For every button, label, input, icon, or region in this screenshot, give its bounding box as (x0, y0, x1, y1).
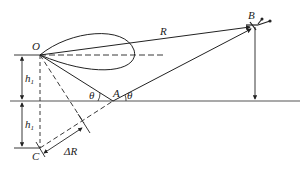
range-label-r: R (159, 25, 167, 37)
multipath-diagram: O A B C R θ θ h1 h1 ΔR (0, 0, 305, 170)
perpendicular-dashed (40, 55, 84, 123)
direct-ray (40, 27, 250, 55)
point-label-a: A (112, 87, 120, 99)
delta-r-label: ΔR (63, 145, 77, 157)
point-label-o: O (32, 40, 40, 52)
image-ray-dashed (40, 101, 113, 148)
reflected-ray (113, 29, 251, 101)
point-label-c: C (32, 150, 40, 162)
theta-arc-right (125, 95, 126, 101)
theta-label-right: θ (127, 89, 133, 101)
point-label-b: B (248, 9, 255, 21)
theta-arc-left (98, 93, 100, 101)
incident-ray (40, 55, 113, 101)
h1-upper-label: h1 (25, 72, 34, 86)
theta-label-left: θ (89, 89, 95, 101)
h1-lower-label: h1 (25, 118, 34, 132)
